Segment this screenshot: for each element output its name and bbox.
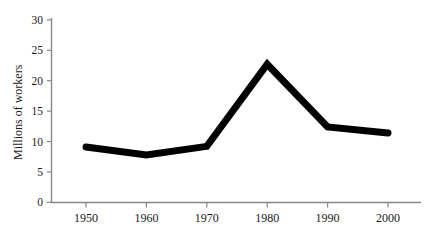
y-tick-label-30: 30 [32,14,44,26]
x-tick-label-1970: 1970 [195,211,219,225]
y-tick-label-20: 20 [32,75,44,87]
y-tick-label-10: 10 [32,136,44,148]
y-tick-label-25: 25 [32,44,44,56]
y-tick-label-0: 0 [37,196,43,208]
x-tick-label-1980: 1980 [255,211,279,225]
y-tick-label-15: 15 [32,105,44,117]
x-tick-label-1960: 1960 [134,211,158,225]
y-tick-label-5: 5 [37,166,43,178]
chart-canvas: 0 5 10 15 20 25 30 1950 1960 1970 1980 1… [0,0,431,238]
x-tick-label-1990: 1990 [316,211,340,225]
x-tick-label-1950: 1950 [74,211,98,225]
line-chart: 0 5 10 15 20 25 30 1950 1960 1970 1980 1… [0,0,431,238]
y-axis-title: Millions of workers [11,64,25,160]
x-tick-label-2000: 2000 [376,211,400,225]
